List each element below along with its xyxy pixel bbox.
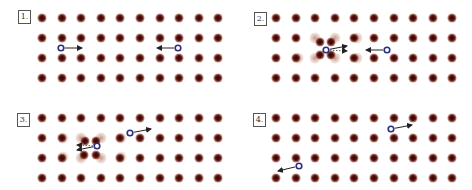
ion bbox=[57, 173, 66, 182]
ion bbox=[37, 33, 46, 42]
ion bbox=[115, 173, 124, 182]
ion bbox=[174, 53, 183, 62]
ion-displaced bbox=[91, 150, 100, 159]
ion bbox=[155, 73, 164, 82]
ion bbox=[37, 53, 46, 62]
ion-displaced bbox=[326, 37, 335, 46]
ion bbox=[447, 113, 456, 122]
ion bbox=[135, 53, 144, 62]
ion bbox=[76, 113, 85, 122]
ion bbox=[115, 133, 124, 142]
ion bbox=[174, 33, 183, 42]
ion bbox=[349, 133, 358, 142]
ion bbox=[291, 53, 300, 62]
ion bbox=[447, 133, 456, 142]
ion bbox=[194, 13, 203, 22]
ion bbox=[330, 73, 339, 82]
ion bbox=[57, 153, 66, 162]
ion bbox=[369, 33, 378, 42]
ion bbox=[135, 153, 144, 162]
ion bbox=[194, 173, 203, 182]
ion bbox=[135, 73, 144, 82]
ion bbox=[428, 53, 437, 62]
ion bbox=[428, 173, 437, 182]
ion bbox=[428, 33, 437, 42]
ion bbox=[291, 113, 300, 122]
ion-displaced bbox=[80, 136, 89, 145]
ion bbox=[291, 13, 300, 22]
ion bbox=[115, 153, 124, 162]
ion bbox=[389, 53, 398, 62]
ion bbox=[174, 173, 183, 182]
ion bbox=[115, 13, 124, 22]
ion bbox=[213, 33, 222, 42]
ion bbox=[76, 53, 85, 62]
ion bbox=[291, 133, 300, 142]
ion bbox=[174, 113, 183, 122]
ion bbox=[57, 113, 66, 122]
electron-icon bbox=[384, 47, 390, 53]
ion bbox=[174, 153, 183, 162]
ion bbox=[271, 173, 280, 182]
panel-1 bbox=[37, 13, 222, 82]
ion bbox=[428, 153, 437, 162]
ion bbox=[291, 73, 300, 82]
ion bbox=[194, 113, 203, 122]
ion bbox=[213, 13, 222, 22]
lattice-diagram bbox=[0, 0, 472, 190]
ion bbox=[174, 73, 183, 82]
ion bbox=[96, 53, 105, 62]
electron-icon bbox=[58, 45, 64, 51]
ion bbox=[213, 113, 222, 122]
ion bbox=[369, 173, 378, 182]
ion bbox=[76, 33, 85, 42]
ion bbox=[389, 153, 398, 162]
ion bbox=[155, 133, 164, 142]
ion bbox=[155, 53, 164, 62]
ion bbox=[194, 153, 203, 162]
ion bbox=[310, 153, 319, 162]
ion bbox=[408, 153, 417, 162]
ion bbox=[155, 33, 164, 42]
ion bbox=[213, 53, 222, 62]
ion bbox=[155, 113, 164, 122]
ion bbox=[349, 173, 358, 182]
ion bbox=[57, 133, 66, 142]
ion bbox=[291, 33, 300, 42]
ion bbox=[271, 153, 280, 162]
ion bbox=[330, 13, 339, 22]
electron-icon bbox=[127, 130, 133, 136]
ion bbox=[408, 73, 417, 82]
ion bbox=[135, 33, 144, 42]
ion bbox=[291, 153, 300, 162]
ion bbox=[408, 13, 417, 22]
ion bbox=[57, 13, 66, 22]
ion bbox=[369, 53, 378, 62]
electron-icon bbox=[323, 47, 329, 53]
ion bbox=[310, 173, 319, 182]
ion bbox=[408, 33, 417, 42]
panel-4 bbox=[271, 113, 456, 182]
ion bbox=[213, 153, 222, 162]
ion bbox=[213, 133, 222, 142]
ion bbox=[271, 13, 280, 22]
ion bbox=[155, 153, 164, 162]
ion bbox=[447, 153, 456, 162]
ion bbox=[369, 153, 378, 162]
ion bbox=[291, 173, 300, 182]
ion bbox=[428, 13, 437, 22]
ion bbox=[194, 133, 203, 142]
ion bbox=[389, 113, 398, 122]
ion bbox=[447, 33, 456, 42]
ion bbox=[96, 73, 105, 82]
ion bbox=[96, 173, 105, 182]
ion bbox=[389, 73, 398, 82]
ion bbox=[194, 53, 203, 62]
momentum-arrow bbox=[395, 125, 412, 128]
ion bbox=[349, 153, 358, 162]
ion bbox=[194, 73, 203, 82]
ion bbox=[447, 173, 456, 182]
ion bbox=[37, 73, 46, 82]
ion bbox=[428, 113, 437, 122]
ion bbox=[447, 53, 456, 62]
